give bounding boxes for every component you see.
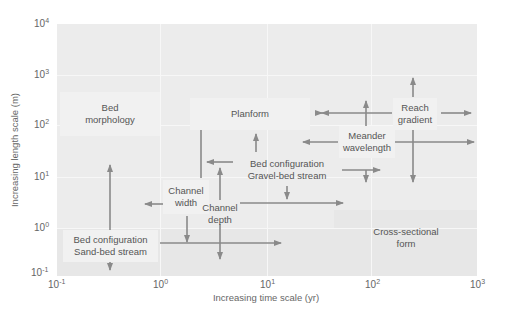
feature-label-line2: wavelength	[343, 142, 391, 154]
feature-label-line1: Channel	[168, 185, 203, 197]
feature-label-line2: Sand-bed stream	[74, 246, 147, 258]
y-tick-1e-1: 10-1	[31, 266, 48, 278]
feature-label-line1: Bed	[102, 102, 119, 114]
x-tick-1e1: 101	[260, 278, 275, 290]
feature-bed-config-gravel: Bed configuration Gravel-bed stream	[235, 155, 339, 185]
y-axis-label: Increasing length scale (m)	[9, 93, 20, 207]
y-tick-1e0: 100	[34, 221, 49, 233]
feature-label-line1: Reach	[401, 102, 428, 114]
feature-label-line2: depth	[208, 214, 232, 226]
y-tick-1e3: 103	[34, 68, 49, 80]
feature-label-line1: Planform	[231, 108, 269, 120]
feature-label-line1: Cross-sectional	[373, 226, 438, 238]
feature-channel-depth: Channel depth	[201, 200, 239, 228]
feature-cross-sectional-form: Cross-sectional form	[336, 222, 476, 254]
feature-bed-morphology: Bed morphology	[60, 92, 160, 136]
feature-reach-gradient: Reach gradient	[393, 98, 437, 130]
x-tick-1e-1: 10-1	[48, 278, 65, 290]
feature-planform: Planform	[190, 98, 310, 130]
x-tick-1e0: 100	[153, 278, 168, 290]
feature-label-line2: form	[397, 238, 416, 250]
x-tick-1e3: 103	[470, 278, 485, 290]
feature-label-line1: Bed configuration	[250, 158, 324, 170]
feature-label-line2: Gravel-bed stream	[248, 170, 327, 182]
y-tick-1e1: 101	[34, 170, 49, 182]
x-axis-label: Increasing time scale (yr)	[213, 292, 319, 303]
feature-label-line1: Channel	[202, 202, 237, 214]
feature-label-line1: Meander	[348, 130, 386, 142]
feature-label-line2: gradient	[398, 114, 432, 126]
y-tick-1e4: 104	[34, 17, 49, 29]
feature-meander-wavelength: Meander wavelength	[339, 126, 395, 158]
x-tick-1e2: 102	[365, 278, 380, 290]
feature-label-line2: width	[175, 197, 197, 209]
feature-bed-config-sand: Bed configuration Sand-bed stream	[63, 230, 158, 262]
feature-label-line1: Bed configuration	[74, 234, 148, 246]
feature-label-line2: morphology	[85, 114, 135, 126]
y-tick-1e2: 102	[34, 118, 49, 130]
